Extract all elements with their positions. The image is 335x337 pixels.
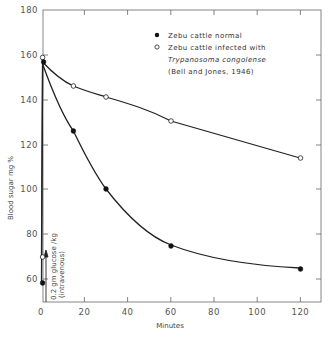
legend-label-normal: Zebu cattle normal xyxy=(168,32,242,40)
data-point xyxy=(298,156,303,161)
y-tick-label: 100 xyxy=(20,184,38,194)
plot-frame xyxy=(43,10,321,302)
data-point xyxy=(104,95,109,100)
annotation-dose: 0.2 gm glucose /kg xyxy=(50,233,58,300)
y-tick-label: 180 xyxy=(20,5,38,15)
annotation-route: (intravenous) xyxy=(58,251,66,298)
infected-markers xyxy=(40,55,303,259)
y-tick-label: 80 xyxy=(26,229,38,239)
data-point xyxy=(71,129,76,134)
legend-label-infected: Zebu cattle infected with xyxy=(168,44,266,52)
x-tick-label: 100 xyxy=(248,307,266,317)
y-axis-title: Blood sugar mg % xyxy=(7,156,15,220)
x-tick-label: 120 xyxy=(292,307,310,317)
data-point xyxy=(71,84,76,89)
data-point xyxy=(169,119,174,124)
y-tick-label: 160 xyxy=(20,50,38,60)
data-point xyxy=(40,255,45,260)
y-tick-label: 120 xyxy=(20,140,38,150)
data-point xyxy=(40,281,45,286)
x-axis-title: Minutes xyxy=(156,322,184,330)
x-tick-labels: 0 20 40 60 80 100 120 xyxy=(38,307,309,317)
y-tick-label: 60 xyxy=(26,274,38,284)
y-tick-labels: 60 80 100 120 140 160 180 xyxy=(20,5,38,284)
legend-marker-open xyxy=(155,45,159,49)
legend: Zebu cattle normal Zebu cattle infected … xyxy=(155,32,266,76)
x-tick-label: 80 xyxy=(208,307,220,317)
data-point xyxy=(41,60,46,65)
legend-marker-filled xyxy=(155,33,159,37)
x-tick-label: 60 xyxy=(165,307,177,317)
normal-markers xyxy=(40,60,303,286)
legend-species: Trypanosoma congolense xyxy=(168,56,266,64)
data-point xyxy=(298,267,303,272)
legend-source: (Bell and Jones, 1946) xyxy=(168,68,254,76)
data-point xyxy=(169,244,174,249)
normal-curve xyxy=(42,64,301,283)
y-tick-label: 140 xyxy=(20,95,38,105)
x-tick-label: 0 xyxy=(38,307,44,317)
data-point xyxy=(104,187,109,192)
infected-curve xyxy=(42,62,301,257)
x-ticks xyxy=(84,10,300,302)
chart-svg: 0 20 40 60 80 100 120 60 80 100 120 140 … xyxy=(0,0,335,337)
x-tick-label: 20 xyxy=(78,307,90,317)
y-ticks xyxy=(43,55,321,279)
data-point xyxy=(40,55,45,60)
x-tick-label: 40 xyxy=(122,307,134,317)
